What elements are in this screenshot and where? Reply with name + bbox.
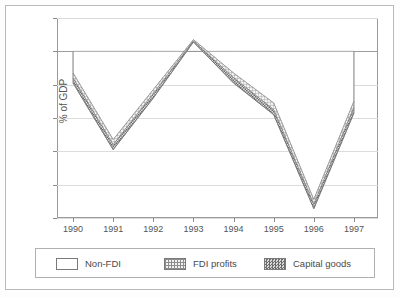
gridline--5	[57, 218, 378, 219]
x-tick-mark	[274, 218, 275, 222]
legend-item-capital-goods[interactable]: Capital goods	[264, 257, 351, 271]
x-tick-mark	[73, 218, 74, 222]
legend-swatch-icon	[56, 258, 78, 270]
x-tick-label: 1997	[334, 224, 374, 234]
x-tick-label: 1991	[93, 224, 133, 234]
x-tick-label: 1994	[214, 224, 254, 234]
chart-figure: 10-1-2-3-4-5 199019911992199319941995199…	[0, 0, 400, 297]
x-tick-mark	[113, 218, 114, 222]
x-tick-label: 1993	[173, 224, 213, 234]
legend-label: Capital goods	[293, 259, 351, 269]
x-tick-mark	[314, 218, 315, 222]
y-tick-mark	[53, 218, 57, 219]
plot-area: 10-1-2-3-4-5 199019911992199319941995199…	[57, 18, 378, 218]
x-tick-mark	[153, 218, 154, 222]
chart-legend: Non-FDIFDI profitsCapital goods	[35, 248, 375, 278]
x-tick-mark	[193, 218, 194, 222]
series-band-non-fdi	[73, 40, 354, 200]
legend-label: Non-FDI	[85, 259, 121, 269]
x-tick-label: 1996	[294, 224, 334, 234]
legend-label: FDI profits	[193, 259, 237, 269]
legend-swatch-icon	[164, 258, 186, 270]
x-tick-label: 1992	[133, 224, 173, 234]
x-tick-label: 1990	[53, 224, 93, 234]
legend-item-non-fdi[interactable]: Non-FDI	[56, 257, 121, 271]
legend-item-fdi-profits[interactable]: FDI profits	[164, 257, 237, 271]
x-tick-label: 1995	[254, 224, 294, 234]
x-tick-mark	[234, 218, 235, 222]
chart-series-svg	[57, 18, 378, 218]
x-tick-mark	[354, 218, 355, 222]
legend-swatch-icon	[264, 258, 286, 270]
